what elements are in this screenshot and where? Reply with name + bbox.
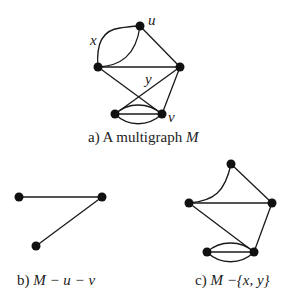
label-u: u [148,12,156,28]
vertex-c-bottom-left [203,248,212,257]
edge-c-right-br [254,203,272,252]
edge-c-top-right [231,164,272,203]
vertex-b-right [98,193,107,202]
vertex-c-right [268,199,277,208]
vertex-v [158,110,167,119]
edge-left-v [98,67,162,114]
caption-b: b) M − u − v [17,272,95,289]
edge-c-bl-br-lower [207,252,254,262]
vertex-right [176,63,185,72]
caption-c: c) M −{x, y} [195,272,270,289]
vertex-c-bottom-right [250,248,259,257]
vertex-c-top [227,160,236,169]
caption-a: a) A multigraph M [88,129,200,146]
label-v: v [168,109,175,125]
vertex-c-left [185,199,194,208]
graph-c-m-minus-xy: c) M −{x, y} [185,160,277,290]
edge-b-right-bottom [36,197,102,246]
vertex-b-bottom [32,242,41,251]
vertex-b-left [15,193,24,202]
edge-u-right [140,26,180,67]
edge-c-left-top-curve [189,164,231,203]
vertex-left [94,63,103,72]
vertex-bottom-left [111,110,120,119]
graph-a-multigraph: u v x y a) A multigraph M [88,12,200,146]
graph-b-m-minus-u-v: b) M − u − v [15,193,107,290]
edge-bl-v-upper [115,105,162,114]
edge-left-u-curve [98,26,140,67]
figure-canvas: u v x y a) A multigraph M b) M − u − v c… [0,0,296,302]
vertex-u [136,22,145,31]
label-y: y [143,71,152,87]
edge-c-bl-br-upper [207,243,254,252]
label-x: x [89,32,97,48]
edge-bl-v-lower [115,114,162,124]
